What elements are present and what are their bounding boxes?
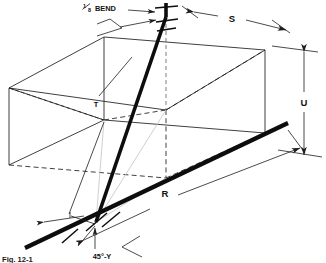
- dim-R-line-right: [178, 148, 300, 195]
- pipe-horizontal-run: [25, 123, 288, 248]
- joint-tick-top-a: [155, 6, 178, 8]
- bend-fraction-denominator: 8: [88, 7, 91, 13]
- isometric-diagram-svg: S U R T: [0, 0, 326, 263]
- dim-S-line-right: [246, 20, 286, 30]
- box-edge-upper-diag: [9, 88, 104, 120]
- callout-bend-bracket: [97, 19, 122, 36]
- box-hidden-edge-floor-front: [9, 165, 166, 178]
- dim-offset-ext-a: [69, 122, 104, 214]
- dimension-S: S: [182, 6, 290, 33]
- figure-root: S U R T: [0, 0, 326, 263]
- callout-y-fitting: 45°-Y: [93, 228, 142, 261]
- label-45-y: 45°-Y: [93, 252, 112, 261]
- dim-U-ext-bottom: [278, 150, 322, 157]
- ghost-line-travel: [96, 110, 166, 222]
- box-edge-bottom-left: [9, 120, 104, 165]
- figure-caption: Fig. 12-1: [2, 255, 34, 263]
- dim-S-label: S: [229, 13, 235, 24]
- dim-U-label: U: [301, 97, 308, 108]
- dim-R-label: R: [162, 188, 169, 199]
- bend-label-text: BEND: [95, 4, 117, 13]
- dimension-R: R: [78, 130, 305, 246]
- callout-y-bracket: [122, 236, 142, 257]
- label-T: T: [94, 100, 99, 109]
- dimension-U: U: [272, 46, 322, 157]
- callout-bend-leader: [128, 10, 155, 12]
- leader-T: T: [94, 57, 132, 109]
- callout-bend: 1 8 BEND: [83, 3, 157, 36]
- dim-S-ext-right: [272, 20, 290, 33]
- dim-S-line-left: [194, 12, 218, 16]
- dimension-offset-left: [44, 122, 104, 224]
- callout-bend-leader-2: [120, 20, 156, 27]
- dim-U-ext-top: [272, 46, 318, 52]
